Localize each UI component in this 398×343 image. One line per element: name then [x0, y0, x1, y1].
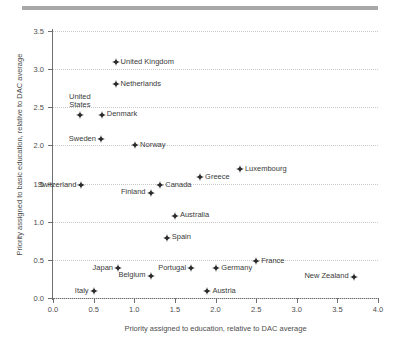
scatter-chart-figure: 0.00.51.01.52.02.53.03.54.0 0.00.51.01.5… [0, 0, 398, 343]
data-point-label: Portugal [158, 264, 186, 273]
data-point-label: United Kingdom [121, 58, 174, 67]
x-tick-label-2.0: 2.0 [210, 305, 220, 314]
diamond-marker-icon [112, 58, 120, 66]
x-tick-1.0 [134, 298, 135, 303]
diamond-marker-icon [98, 111, 106, 119]
x-tick-3.0 [297, 298, 298, 303]
plot-area: United KingdomNetherlandsUnitedStatesDen… [53, 31, 378, 298]
data-point-label: France [261, 257, 284, 266]
x-axis-title: Priority assigned to education, relative… [53, 324, 378, 333]
diamond-marker-icon [131, 141, 139, 149]
diamond-marker-icon [156, 181, 164, 189]
y-axis-title: Priority assigned to basic education, re… [15, 40, 24, 270]
y-tick-label-3.5: 3.5 [0, 27, 44, 36]
diamond-marker-icon [147, 272, 155, 280]
x-tick-4.0 [378, 298, 379, 303]
diamond-marker-icon [112, 80, 120, 88]
x-tick-label-4.0: 4.0 [373, 305, 383, 314]
x-tick-2.5 [256, 298, 257, 303]
y-tick-label-0.0: 0.0 [0, 294, 44, 303]
x-tick-label-3.0: 3.0 [292, 305, 302, 314]
data-point-label: Italy [75, 287, 89, 296]
data-point-label: Greece [205, 173, 230, 182]
data-point-label: Belgium [118, 271, 145, 280]
data-point-label: UnitedStates [69, 93, 91, 110]
x-tick-1.5 [175, 298, 176, 303]
x-tick-label-3.5: 3.5 [332, 305, 342, 314]
data-point-label: Canada [165, 181, 191, 190]
diamond-marker-icon [90, 287, 98, 295]
x-tick-0.5 [94, 298, 95, 303]
data-point-label: Spain [172, 233, 191, 242]
x-tick-label-2.5: 2.5 [251, 305, 261, 314]
x-tick-label-1.0: 1.0 [129, 305, 139, 314]
x-tick-0.0 [53, 298, 54, 303]
data-point-label: Austria [212, 287, 235, 296]
x-tick-2.0 [216, 298, 217, 303]
diamond-marker-icon [196, 173, 204, 181]
diamond-marker-icon [163, 234, 171, 242]
diamond-marker-icon [147, 189, 155, 197]
diamond-marker-icon [350, 273, 358, 281]
diamond-marker-icon [76, 111, 84, 119]
data-point-label: Norway [140, 141, 165, 150]
x-tick-3.5 [337, 298, 338, 303]
diamond-marker-icon [212, 264, 220, 272]
data-point-label: Netherlands [121, 80, 161, 89]
diamond-marker-icon [236, 165, 244, 173]
data-point-label: Germany [221, 264, 252, 273]
diamond-marker-icon [171, 212, 179, 220]
data-point-label-line2: States [69, 101, 91, 110]
data-point-label: Switzerland [38, 181, 77, 190]
data-point-label: Japan [93, 264, 113, 273]
data-point-label: Sweden [69, 135, 96, 144]
x-tick-label-0.0: 0.0 [48, 305, 58, 314]
data-point-label: New Zealand [304, 272, 348, 281]
y-tick-0.0 [48, 298, 53, 299]
x-tick-label-1.5: 1.5 [170, 305, 180, 314]
data-point-label: Finland [121, 188, 146, 197]
top-divider-rule [22, 6, 378, 10]
diamond-marker-icon [77, 181, 85, 189]
data-point-label: Australia [180, 211, 209, 220]
diamond-marker-icon [97, 135, 105, 143]
diamond-marker-icon [203, 287, 211, 295]
diamond-marker-icon [187, 264, 195, 272]
x-tick-label-0.5: 0.5 [88, 305, 98, 314]
data-point-label: Luxembourg [245, 165, 287, 174]
data-point-label: Denmark [107, 110, 137, 119]
diamond-marker-icon [252, 257, 260, 265]
